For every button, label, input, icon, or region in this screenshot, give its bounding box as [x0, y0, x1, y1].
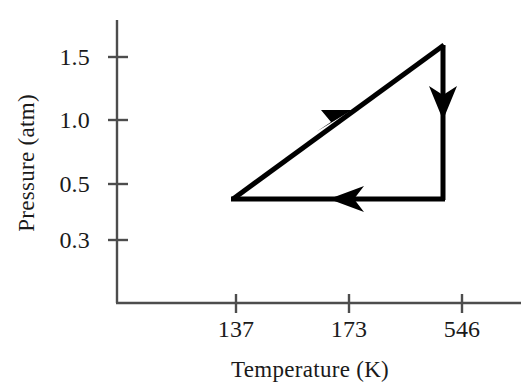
cycle-path [231, 45, 445, 200]
segment-a-to-b [233, 45, 444, 199]
direction-arrowheads [316, 86, 457, 212]
y-axis-title: Pressure (atm) [14, 73, 40, 253]
axis-lines [116, 20, 521, 303]
x-tick-label-3: 546 [427, 317, 497, 341]
pressure-temperature-chart: 1.5 1.0 0.5 0.3 137 173 546 Pressure (at… [0, 0, 521, 388]
x-tick-label-2: 173 [314, 317, 384, 341]
y-tick-label-1: 1.5 [28, 45, 90, 69]
x-tick-label-1: 137 [201, 317, 271, 341]
x-axis-title: Temperature (K) [160, 357, 460, 383]
